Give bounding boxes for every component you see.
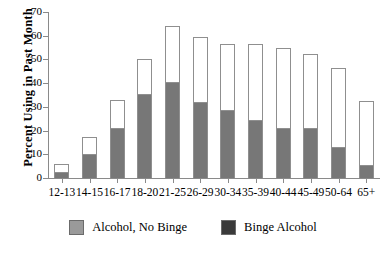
bar-group — [276, 12, 291, 178]
x-axis-tick — [339, 179, 340, 183]
bar-group — [248, 12, 263, 178]
x-axis-tick — [228, 179, 229, 183]
x-axis-tick-label: 30-34 — [214, 185, 242, 199]
y-axis-line — [48, 12, 49, 179]
x-axis-tick — [283, 179, 284, 183]
x-axis-line — [48, 178, 380, 179]
bar-group — [110, 12, 125, 178]
bar-segment-binge-alcohol — [82, 154, 97, 178]
bar-segment-binge-alcohol — [359, 165, 374, 178]
y-axis-tick — [43, 59, 48, 60]
bar-group — [331, 12, 346, 178]
x-axis-tick — [117, 179, 118, 183]
x-axis-tick — [366, 179, 367, 183]
bar-group — [54, 12, 69, 178]
y-axis-tick — [43, 83, 48, 84]
x-axis-tick-label: 65+ — [352, 185, 380, 199]
x-axis-tick-label: 16-17 — [103, 185, 131, 199]
y-axis-tick — [43, 36, 48, 37]
x-axis-tick — [200, 179, 201, 183]
plot-area — [48, 12, 380, 178]
y-axis-tick-labels: 010203040506070 — [14, 12, 42, 178]
bar-group — [220, 12, 235, 178]
stacked-bar-chart: Percent Using in Past Month 010203040506… — [0, 0, 386, 256]
bar-segment-binge-alcohol — [248, 120, 263, 178]
legend-entry: Binge Alcohol — [221, 220, 317, 235]
x-axis-tick — [145, 179, 146, 183]
x-axis-tick — [90, 179, 91, 183]
bar-segment-binge-alcohol — [137, 94, 152, 178]
chart-legend: Alcohol, No BingeBinge Alcohol — [0, 220, 386, 235]
x-axis-tick-label: 35-39 — [242, 185, 270, 199]
x-axis-tick — [173, 179, 174, 183]
y-axis-tick — [43, 178, 48, 179]
bar-segment-binge-alcohol — [331, 147, 346, 178]
bar-segment-binge-alcohol — [193, 102, 208, 178]
x-axis-tick-label: 14-15 — [76, 185, 104, 199]
bar-segment-binge-alcohol — [220, 110, 235, 178]
x-axis-tick-labels: 12-1314-1516-1718-2021-2526-2930-3435-39… — [48, 185, 380, 201]
bar-group — [303, 12, 318, 178]
x-axis-tick-label: 21-25 — [159, 185, 187, 199]
y-axis-tick — [43, 131, 48, 132]
y-axis-tick-label: 20 — [16, 125, 42, 136]
y-axis-tick-label: 40 — [16, 77, 42, 88]
x-axis-tick-label: 45-49 — [297, 185, 325, 199]
y-axis-tick-label: 50 — [16, 53, 42, 64]
x-axis-tick — [311, 179, 312, 183]
y-axis-tick — [43, 12, 48, 13]
x-axis-tick-label: 12-13 — [48, 185, 76, 199]
bar-group — [137, 12, 152, 178]
y-axis-tick-label: 10 — [16, 148, 42, 159]
y-axis-tick-label: 60 — [16, 30, 42, 41]
x-axis-tick — [62, 179, 63, 183]
legend-swatch — [221, 220, 236, 235]
y-axis-tick-label: 0 — [16, 172, 42, 183]
legend-swatch — [69, 220, 84, 235]
y-axis-tick — [43, 107, 48, 108]
y-axis-tick-label: 70 — [16, 6, 42, 17]
bar-group — [193, 12, 208, 178]
bar-segment-binge-alcohol — [165, 82, 180, 178]
x-axis-tick — [256, 179, 257, 183]
x-axis-tick-label: 40-44 — [269, 185, 297, 199]
legend-label: Alcohol, No Binge — [92, 221, 187, 234]
bar-segment-binge-alcohol — [276, 128, 291, 178]
bar-group — [82, 12, 97, 178]
x-axis-tick-label: 18-20 — [131, 185, 159, 199]
bar-group — [359, 12, 374, 178]
y-axis-tick — [43, 154, 48, 155]
bar-group — [165, 12, 180, 178]
x-axis-tick-label: 26-29 — [186, 185, 214, 199]
y-axis-tick-label: 30 — [16, 101, 42, 112]
legend-label: Binge Alcohol — [244, 221, 317, 234]
legend-entry: Alcohol, No Binge — [69, 220, 187, 235]
bar-segment-binge-alcohol — [54, 172, 69, 178]
bar-segment-binge-alcohol — [303, 128, 318, 178]
bar-segment-binge-alcohol — [110, 128, 125, 178]
x-axis-tick-label: 50-64 — [325, 185, 353, 199]
